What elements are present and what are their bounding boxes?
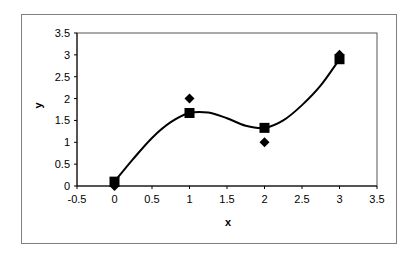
x-tick-label: 1 xyxy=(186,193,192,205)
scatter-chart: -0.500.511.522.533.500.511.522.533.5xy xyxy=(0,0,418,257)
x-tick-label: -0.5 xyxy=(68,193,87,205)
x-tick-label: 2.5 xyxy=(294,193,309,205)
x-axis-title: x xyxy=(225,216,232,228)
y-axis-title: y xyxy=(32,102,44,109)
square-marker xyxy=(335,54,345,64)
y-tick-label: 2 xyxy=(64,93,70,105)
diamond-marker xyxy=(185,94,195,104)
square-marker xyxy=(185,108,195,118)
y-tick-label: 0 xyxy=(64,180,70,192)
y-tick-label: 0.5 xyxy=(55,158,70,170)
y-tick-label: 1.5 xyxy=(55,114,70,126)
x-tick-label: 1.5 xyxy=(219,193,234,205)
diamond-marker xyxy=(260,137,270,147)
y-tick-label: 1 xyxy=(64,136,70,148)
x-tick-label: 3.5 xyxy=(369,193,384,205)
x-tick-label: 0 xyxy=(111,193,117,205)
square-marker xyxy=(260,123,270,133)
plot-area xyxy=(77,33,377,186)
x-tick-label: 2 xyxy=(261,193,267,205)
fitted-curve xyxy=(115,59,340,181)
y-tick-label: 2.5 xyxy=(55,71,70,83)
x-tick-label: 3 xyxy=(336,193,342,205)
y-tick-label: 3 xyxy=(64,49,70,61)
x-tick-label: 0.5 xyxy=(144,193,159,205)
square-marker xyxy=(110,177,120,187)
y-tick-label: 3.5 xyxy=(55,27,70,39)
